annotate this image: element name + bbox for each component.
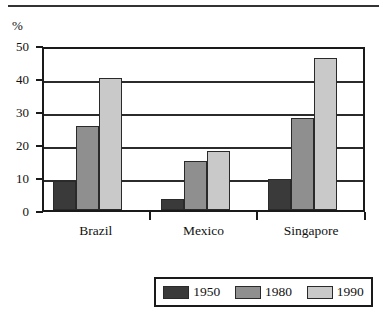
right-tick <box>350 180 363 182</box>
bar <box>268 179 291 210</box>
x-axis-separator <box>364 212 366 220</box>
y-tick-label: 20 <box>3 139 29 152</box>
legend-entry: 1990 <box>307 285 364 299</box>
bar <box>291 118 314 210</box>
legend-entry: 1980 <box>235 285 292 299</box>
x-axis-category-label: Brazil <box>36 224 156 238</box>
legend-swatch <box>235 286 261 299</box>
bar <box>161 199 184 210</box>
legend-swatch <box>307 286 333 299</box>
right-tick <box>350 147 363 149</box>
bar <box>76 126 99 210</box>
bar-chart-figure: % 01020304050 BrazilMexicoSingapore 1950… <box>0 0 383 316</box>
y-tick-label: 0 <box>3 205 29 218</box>
y-tick-label: 40 <box>3 73 29 86</box>
x-axis-category-label: Mexico <box>144 224 264 238</box>
y-tick-label: 30 <box>3 106 29 119</box>
bar <box>314 58 337 210</box>
legend-entry: 1950 <box>163 285 220 299</box>
right-tick <box>350 81 363 83</box>
plot-area <box>42 47 365 212</box>
bar <box>207 151 230 210</box>
bar <box>53 181 76 210</box>
chart-legend: 195019801990 <box>154 277 373 307</box>
x-axis-separator <box>256 212 258 220</box>
y-tick-label: 10 <box>3 172 29 185</box>
x-axis-separator <box>149 212 151 220</box>
bar <box>99 78 122 210</box>
y-tick-label: 50 <box>3 40 29 53</box>
y-axis-unit-label: % <box>12 19 23 32</box>
bar <box>184 161 207 211</box>
right-tick <box>350 114 363 116</box>
legend-label: 1950 <box>193 285 220 299</box>
legend-label: 1980 <box>265 285 292 299</box>
x-axis-category-label: Singapore <box>251 224 371 238</box>
legend-label: 1990 <box>337 285 364 299</box>
legend-swatch <box>163 286 189 299</box>
page-top-rule <box>8 5 379 7</box>
